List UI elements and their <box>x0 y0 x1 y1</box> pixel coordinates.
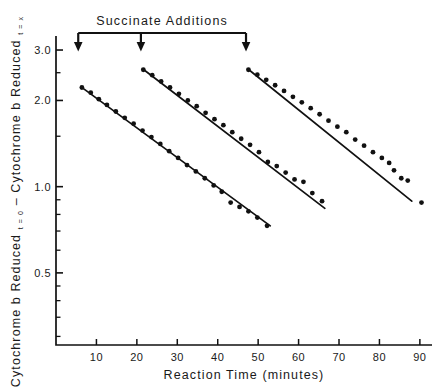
data-point <box>246 209 251 214</box>
figure-root: Succinate Additions 1020304050607080900.… <box>0 0 446 392</box>
data-point <box>308 106 313 111</box>
data-point <box>255 215 260 220</box>
x-tick-label: 80 <box>373 351 386 363</box>
x-tick-label: 20 <box>130 351 143 363</box>
annotation-title: Succinate Additions <box>96 14 228 28</box>
y-tick-label: 0.5 <box>34 267 51 279</box>
y-tick-label: 2.0 <box>34 94 51 106</box>
chart-canvas: Succinate Additions 1020304050607080900.… <box>0 0 446 392</box>
data-point <box>264 77 269 82</box>
data-point <box>392 168 397 173</box>
data-point <box>168 85 173 90</box>
data-point <box>344 130 349 135</box>
data-point <box>113 109 118 114</box>
data-point <box>158 142 163 147</box>
data-point <box>362 143 367 148</box>
x-tick-label: 40 <box>211 351 224 363</box>
data-point <box>379 156 384 161</box>
data-point <box>230 130 235 135</box>
data-point <box>239 136 244 141</box>
x-tick-label: 30 <box>171 351 184 363</box>
data-point <box>140 128 145 133</box>
data-point <box>149 135 154 140</box>
data-point <box>310 191 315 196</box>
data-point <box>185 163 190 168</box>
data-point <box>194 104 199 109</box>
data-point <box>274 164 279 169</box>
data-point <box>353 137 358 142</box>
data-point <box>387 161 392 166</box>
data-point <box>299 100 304 105</box>
data-point <box>193 169 198 174</box>
x-tick-label: 50 <box>252 351 265 363</box>
data-point <box>292 177 297 182</box>
data-point <box>203 110 208 115</box>
data-point <box>265 223 270 228</box>
data-point <box>326 118 331 123</box>
x-tick-label: 70 <box>332 351 345 363</box>
data-point <box>167 149 172 154</box>
data-point <box>257 150 262 155</box>
data-point <box>228 200 233 205</box>
data-point <box>291 94 296 99</box>
x-tick-label: 60 <box>292 351 305 363</box>
data-point <box>212 117 217 122</box>
data-point <box>211 183 216 188</box>
data-point <box>88 90 93 95</box>
data-point <box>159 79 164 84</box>
data-point <box>320 199 325 204</box>
data-point <box>131 121 136 126</box>
data-point <box>301 179 306 184</box>
data-point <box>273 83 278 88</box>
y-axis-label-text: Cytochrome b Reduced t = 0 – Cytochrome … <box>9 16 24 387</box>
data-point <box>141 67 146 72</box>
data-point <box>96 97 101 102</box>
data-point <box>282 88 287 93</box>
x-tick-label: 90 <box>413 351 426 363</box>
data-point <box>317 112 322 117</box>
canvas-background <box>0 0 446 392</box>
data-point <box>283 170 288 175</box>
data-point <box>399 176 404 181</box>
data-point <box>248 142 253 147</box>
data-point <box>202 176 207 181</box>
y-tick-label: 3.0 <box>34 44 51 56</box>
data-point <box>371 150 376 155</box>
x-tick-label: 10 <box>90 351 103 363</box>
data-point <box>405 178 410 183</box>
data-point <box>177 91 182 96</box>
data-point <box>255 72 260 77</box>
data-point <box>185 98 190 103</box>
data-point <box>237 204 242 209</box>
data-point <box>221 123 226 128</box>
data-point <box>150 73 155 78</box>
x-axis-label: Reaction Time (minutes) <box>164 368 325 382</box>
data-point-outlier <box>419 200 424 205</box>
y-axis-label: Cytochrome b Reduced t = 0 – Cytochrome … <box>9 16 24 387</box>
data-point <box>79 85 84 90</box>
data-point <box>176 156 181 161</box>
y-tick-label: 1.0 <box>34 181 51 193</box>
data-point <box>246 67 251 72</box>
data-point <box>105 102 110 107</box>
data-point <box>122 115 127 120</box>
data-point <box>335 124 340 129</box>
data-point <box>219 189 224 194</box>
data-point <box>265 160 270 165</box>
